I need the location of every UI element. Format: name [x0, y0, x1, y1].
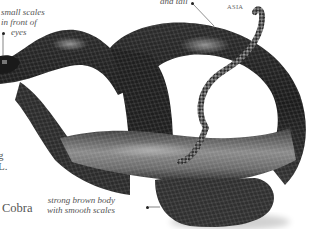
annotation-line: eyes: [1, 27, 45, 37]
annotation-body: strong brown body with smooth scales: [47, 195, 115, 215]
annotation-line: small scales: [1, 7, 45, 17]
annotation-tail: and tail: [160, 0, 188, 6]
leader-dot: [191, 2, 194, 5]
annotation-line: with smooth scales: [47, 205, 115, 215]
leader-dot: [146, 206, 149, 209]
region-label: ASIA: [227, 3, 243, 10]
annotation-line: in front of: [1, 17, 45, 27]
annotation-eye-scales: small scales in front of eyes: [1, 7, 45, 37]
eye: [2, 60, 7, 64]
cropped-text: L.: [0, 160, 7, 172]
book-page: small scales in front of eyes and tail A…: [0, 0, 310, 229]
species-name: Cobra: [2, 201, 33, 216]
annotation-line: strong brown body: [47, 195, 115, 205]
leader-dot: [2, 32, 5, 35]
